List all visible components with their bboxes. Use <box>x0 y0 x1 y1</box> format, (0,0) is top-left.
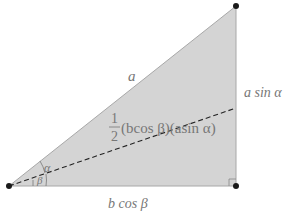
vertex-left <box>6 183 12 189</box>
vertex-bottom-right <box>233 183 239 189</box>
triangle-diagram: a a sin α b cos β 1 2 (bcos β)(asin α) α… <box>0 0 285 220</box>
label-hypotenuse: a <box>128 68 136 84</box>
area-fraction-denominator: 2 <box>111 129 118 144</box>
vertex-top-right <box>233 3 239 9</box>
label-angle-alpha: α <box>44 161 51 175</box>
label-base: b cos β <box>108 196 148 211</box>
label-vertical-side: a sin α <box>244 85 282 100</box>
area-fraction-numerator: 1 <box>111 111 118 126</box>
area-expression: (bcos β)(asin α) <box>121 120 216 137</box>
right-triangle <box>9 6 236 186</box>
label-angle-beta: β <box>36 174 43 186</box>
